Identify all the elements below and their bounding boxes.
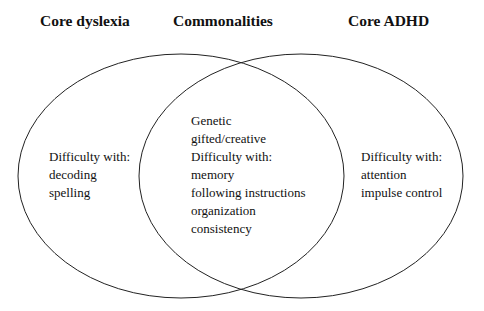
commonality-line: consistency (191, 220, 305, 238)
dyslexia-region-text: Difficulty with: decoding spelling (49, 148, 130, 202)
adhd-line: attention (361, 166, 442, 184)
adhd-region-text: Difficulty with: attention impulse contr… (361, 148, 442, 202)
dyslexia-line: spelling (49, 184, 130, 202)
commonality-line: following instructions (191, 184, 305, 202)
adhd-line: impulse control (361, 184, 442, 202)
commonality-line: organization (191, 202, 305, 220)
commonality-line: gifted/creative (191, 130, 305, 148)
commonality-line: Genetic (191, 112, 305, 130)
dyslexia-line: decoding (49, 166, 130, 184)
commonality-line: Difficulty with: (191, 148, 305, 166)
commonality-line: memory (191, 166, 305, 184)
dyslexia-line: Difficulty with: (49, 148, 130, 166)
commonalities-region-text: Genetic gifted/creative Difficulty with:… (191, 112, 305, 238)
adhd-line: Difficulty with: (361, 148, 442, 166)
